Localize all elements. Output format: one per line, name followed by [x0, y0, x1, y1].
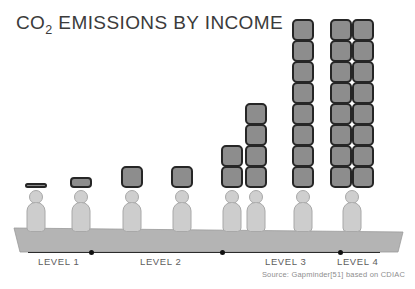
block-unit-partial — [25, 183, 47, 188]
block-stack — [121, 166, 143, 187]
block-unit — [352, 145, 374, 167]
block-unit — [292, 19, 314, 41]
person-figure-icon — [292, 190, 314, 232]
bar-3 — [110, 0, 154, 260]
block-unit — [330, 40, 352, 62]
block-sub-column — [121, 166, 143, 187]
block-stack — [25, 183, 47, 187]
bar-7 — [281, 0, 325, 260]
block-stack — [70, 177, 92, 187]
block-unit — [352, 82, 374, 104]
block-sub-column — [70, 177, 92, 187]
block-stack — [292, 19, 314, 187]
person-figure-icon — [171, 190, 193, 232]
block-stack — [171, 166, 193, 187]
block-sub-column — [171, 166, 193, 187]
block-unit-partial — [70, 177, 92, 188]
block-unit — [330, 145, 352, 167]
block-sub-column — [25, 183, 47, 187]
person-figure-icon — [70, 190, 92, 232]
block-unit — [121, 166, 143, 188]
bar-4 — [160, 0, 204, 260]
person-figure-icon — [25, 190, 47, 232]
block-sub-column — [292, 19, 314, 187]
block-stack — [330, 19, 374, 187]
bar-columns — [0, 0, 415, 260]
person-body — [123, 202, 142, 232]
block-unit — [330, 124, 352, 146]
block-unit — [292, 124, 314, 146]
block-unit — [352, 19, 374, 41]
block-unit — [330, 166, 352, 188]
block-unit — [292, 40, 314, 62]
block-sub-column — [352, 19, 374, 187]
block-sub-column — [330, 19, 352, 187]
person-figure-icon — [121, 190, 143, 232]
person-figure-icon — [245, 190, 267, 232]
block-unit — [330, 61, 352, 83]
block-unit — [352, 40, 374, 62]
level-label-1: LEVEL 1 — [38, 256, 79, 267]
block-unit — [352, 103, 374, 125]
block-unit — [245, 166, 267, 188]
block-unit — [292, 145, 314, 167]
axis-line — [28, 252, 380, 253]
bar-8 — [330, 0, 374, 260]
person-body — [72, 202, 91, 232]
person-body — [294, 202, 313, 232]
bar-1 — [14, 0, 58, 260]
source-attribution: Source: Gapminder[51] based on CDIAC — [262, 270, 405, 279]
block-unit — [292, 103, 314, 125]
axis-tick-3 — [338, 250, 343, 255]
bar-2 — [59, 0, 103, 260]
level-label-4: LEVEL 4 — [337, 256, 378, 267]
block-unit — [352, 61, 374, 83]
block-unit — [352, 124, 374, 146]
axis-tick-2 — [220, 250, 225, 255]
level-label-3: LEVEL 3 — [265, 256, 306, 267]
block-unit — [330, 82, 352, 104]
person-body — [173, 202, 192, 232]
block-sub-column — [245, 103, 267, 187]
bar-6 — [234, 0, 278, 260]
block-unit — [330, 103, 352, 125]
block-unit — [245, 103, 267, 125]
person-body — [27, 202, 46, 232]
level-label-2: LEVEL 2 — [140, 256, 181, 267]
axis-tick-1 — [89, 250, 94, 255]
block-unit — [292, 166, 314, 188]
block-unit — [245, 145, 267, 167]
block-unit — [292, 82, 314, 104]
block-unit — [171, 166, 193, 188]
block-unit — [352, 166, 374, 188]
person-figure-icon — [341, 190, 363, 232]
block-stack — [245, 103, 267, 187]
block-unit — [292, 61, 314, 83]
block-unit — [245, 124, 267, 146]
chart-root: CO2 EMISSIONS BY INCOME LEVEL 1LEVEL 2LE… — [0, 0, 415, 289]
person-body — [247, 202, 266, 232]
block-unit — [330, 19, 352, 41]
person-body — [343, 202, 362, 232]
